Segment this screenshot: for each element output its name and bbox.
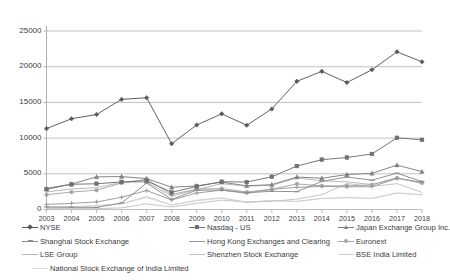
y-axis-tick-label: 25000 (19, 26, 41, 35)
legend-key-swatch (338, 250, 354, 259)
legend-label: NYSE (40, 223, 61, 232)
legend-item-hong-kong-exchanges-and-clearing[interactable]: Hong Kong Exchanges and Clearing (189, 235, 330, 248)
legend-label: Euronext (356, 237, 386, 246)
axis-lines (44, 26, 47, 210)
y-axis-tick-label: 0 (37, 204, 41, 213)
legend-row: Shanghai Stock ExchangeHong Kong Exchang… (22, 235, 426, 248)
data-point-marker (119, 195, 123, 199)
data-point-marker (220, 180, 224, 184)
data-point-marker (295, 185, 299, 189)
chart-legend: NYSENasdaq - USJapan Exchange Group Inc.… (22, 221, 426, 279)
data-point-marker (270, 175, 274, 179)
y-axis-tick-label: 5000 (24, 168, 42, 177)
legend-row: NYSENasdaq - USJapan Exchange Group Inc. (22, 221, 426, 234)
data-point-marker (94, 112, 99, 117)
series-lines (44, 50, 424, 209)
x-tick-marks (47, 210, 423, 214)
legend-item-shanghai-stock-exchange[interactable]: Shanghai Stock Exchange (22, 235, 129, 248)
legend-item-shenzhen-stock-exchange[interactable]: Shenzhen Stock Exchange (189, 248, 298, 261)
data-point-marker (45, 187, 49, 191)
legend-key-swatch (32, 264, 48, 273)
data-point-marker (95, 182, 99, 186)
y-axis-tick-label: 10000 (19, 133, 41, 142)
legend-key-swatch (189, 250, 205, 259)
data-point-marker (320, 69, 325, 74)
legend-label: National Stock Exchange of India Limited (50, 264, 188, 273)
data-point-marker (45, 193, 49, 197)
series-bse-india-limited (47, 193, 423, 208)
data-point-marker (69, 116, 74, 121)
data-point-marker (69, 201, 73, 205)
legend-label: LSE Group (40, 250, 78, 259)
data-point-marker (195, 191, 199, 195)
legend-label: BSE India Limited (356, 250, 416, 259)
data-point-marker (420, 138, 424, 142)
gridlines (47, 31, 423, 210)
legend-key-swatch (189, 237, 205, 246)
data-point-marker (195, 184, 199, 188)
legend-key-swatch (22, 223, 38, 232)
data-point-marker (94, 200, 98, 204)
legend-key-swatch (338, 223, 354, 232)
legend-row: LSE GroupShenzhen Stock ExchangeBSE Indi… (22, 248, 426, 261)
data-point-marker (420, 60, 425, 65)
data-point-marker (120, 180, 124, 184)
legend-item-bse-india-limited[interactable]: BSE India Limited (338, 248, 416, 261)
data-point-marker (345, 156, 349, 160)
data-point-marker (219, 112, 224, 117)
legend-label: Japan Exchange Group Inc. (356, 223, 450, 232)
data-point-marker (370, 152, 374, 156)
data-point-marker (119, 97, 124, 102)
data-point-marker (345, 80, 350, 85)
data-point-marker (145, 179, 149, 183)
data-point-marker (170, 190, 174, 194)
legend-label: Shanghai Stock Exchange (40, 237, 129, 246)
data-point-marker (395, 163, 399, 167)
legend-label: Hong Kong Exchanges and Clearing (207, 237, 330, 246)
data-point-marker (44, 202, 48, 206)
legend-key-swatch (22, 237, 38, 246)
series-line (47, 52, 423, 144)
data-point-marker (320, 158, 324, 162)
legend-item-national-stock-exchange-of-india-limited[interactable]: National Stock Exchange of India Limited (32, 262, 188, 275)
legend-item-lse-group[interactable]: LSE Group (22, 248, 78, 261)
legend-item-japan-exchange-group-inc[interactable]: Japan Exchange Group Inc. (338, 221, 450, 234)
legend-label: Nasdaq - US (207, 223, 250, 232)
legend-row: National Stock Exchange of India Limited (22, 262, 426, 275)
data-point-marker (70, 182, 74, 186)
y-axis-tick-label: 20000 (19, 61, 41, 70)
series-line (47, 193, 423, 208)
legend-item-nyse[interactable]: NYSE (22, 221, 61, 234)
data-point-marker (295, 164, 299, 168)
data-point-marker (144, 95, 149, 100)
legend-key-swatch (22, 250, 38, 259)
legend-key-swatch (189, 223, 205, 232)
data-point-marker (395, 136, 399, 140)
data-point-marker (70, 190, 74, 194)
legend-item-nasdaq-us[interactable]: Nasdaq - US (189, 221, 250, 234)
data-point-marker (44, 126, 49, 131)
data-point-marker (144, 188, 148, 192)
legend-label: Shenzhen Stock Exchange (207, 250, 298, 259)
data-point-marker (245, 180, 249, 184)
series-nyse (44, 50, 424, 147)
data-point-marker (95, 188, 99, 192)
legend-key-swatch (338, 237, 354, 246)
y-axis-tick-label: 15000 (19, 97, 41, 106)
legend-item-euronext[interactable]: Euronext (338, 235, 386, 248)
